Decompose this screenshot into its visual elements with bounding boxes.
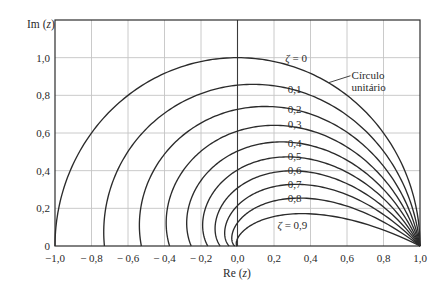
curve-annotation: 0,1 (288, 83, 302, 95)
curve-annotation: ζ = 0 (285, 52, 307, 65)
y-tick-label: 0,4 (36, 165, 50, 177)
x-tick-label: − 0,2 (190, 252, 213, 264)
x-axis-title-main: Re ( (223, 267, 243, 280)
y-tick-label: 0,2 (36, 202, 50, 214)
x-axis-title-close: ) (247, 267, 251, 280)
y-axis-title-close: ) (51, 18, 55, 31)
y-tick-label: 0,6 (36, 127, 50, 139)
x-tick-label: − 0,8 (80, 252, 103, 264)
damping-curve (232, 198, 420, 246)
x-tick-label: − 0,6 (117, 252, 140, 264)
y-tick-labels: 00,20,40,60,81,0 (36, 52, 50, 252)
y-axis-title: Im (z) (27, 18, 55, 31)
x-tick-label: − 0,4 (153, 252, 176, 264)
curve-annotation: 0,3 (288, 118, 302, 130)
curve-annotation: 0,2 (288, 103, 302, 115)
y-tick-label: 0 (45, 240, 51, 252)
x-tick-label: 0,8 (377, 252, 391, 264)
z-plane-damping-chart: −1,0− 0,8− 0,6− 0,4− 0,20,00,20,40,60,81… (0, 0, 448, 293)
x-tick-label: 0,4 (304, 252, 318, 264)
x-tick-label: 0,6 (340, 252, 354, 264)
curve-annotation: ζ = 0,9 (277, 219, 307, 232)
curve-labels: ζ = 00,10,20,30,40,50,60,70,8ζ = 0,9Círc… (277, 52, 386, 231)
x-tick-label: 1,0 (413, 252, 427, 264)
curve-annotation: 0,5 (288, 150, 302, 162)
damping-curve (236, 214, 420, 246)
y-tick-label: 1,0 (36, 52, 50, 64)
x-tick-labels: −1,0− 0,8− 0,6− 0,4− 0,20,00,20,40,60,81… (45, 252, 427, 264)
curve-annotation: 0,4 (288, 137, 302, 149)
curve-annotation: unitário (352, 81, 387, 93)
x-axis-title: Re (z) (223, 267, 251, 280)
y-axis-title-main: Im ( (27, 18, 47, 31)
curve-annotation: 0,6 (288, 164, 302, 176)
x-tick-label: 0,2 (267, 252, 281, 264)
x-tick-label: −1,0 (45, 252, 65, 264)
x-tick-label: 0,0 (231, 252, 245, 264)
curve-annotation: 0,7 (288, 178, 302, 190)
curve-annotation: Círculo (352, 69, 385, 81)
damping-curve (104, 84, 420, 246)
y-tick-label: 0,8 (36, 89, 50, 101)
curve-annotation: 0,8 (288, 192, 302, 204)
